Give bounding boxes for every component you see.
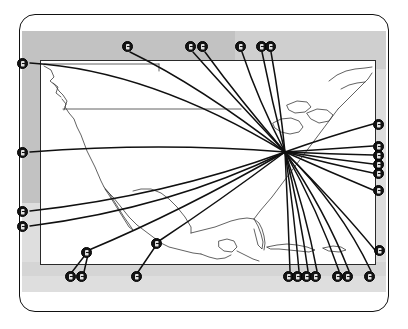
map-marker-m06[interactable] — [185, 41, 196, 52]
map-marker-m07[interactable] — [197, 41, 208, 52]
map-marker-m02[interactable] — [17, 147, 28, 158]
map-marker-m03[interactable] — [17, 206, 28, 217]
map-marker-m26[interactable] — [310, 271, 321, 282]
map-marker-m20[interactable] — [76, 271, 87, 282]
map-marker-m16[interactable] — [373, 185, 384, 196]
map-marker-m15[interactable] — [373, 168, 384, 179]
map-plot-area — [40, 60, 376, 265]
map-marker-m27[interactable] — [332, 271, 343, 282]
map-marker-m17[interactable] — [374, 245, 385, 256]
north-america-basemap — [41, 61, 375, 264]
map-marker-m04[interactable] — [17, 221, 28, 232]
map-marker-m01[interactable] — [17, 58, 28, 69]
map-marker-m29[interactable] — [364, 271, 375, 282]
map-marker-m08[interactable] — [235, 41, 246, 52]
map-marker-m05[interactable] — [122, 41, 133, 52]
map-marker-m21[interactable] — [151, 238, 162, 249]
map-marker-m28[interactable] — [342, 271, 353, 282]
map-marker-m11[interactable] — [373, 119, 384, 130]
map-marker-m19[interactable] — [65, 271, 76, 282]
map-marker-m18[interactable] — [81, 247, 92, 258]
map-marker-m22[interactable] — [131, 271, 142, 282]
map-marker-m10[interactable] — [265, 41, 276, 52]
figure-root — [0, 0, 408, 329]
